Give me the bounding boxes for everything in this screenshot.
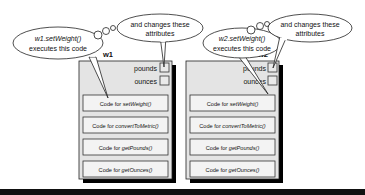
svg-text:Code for getPounds(): Code for getPounds() xyxy=(99,145,153,151)
svg-text:Code for getPounds(): Code for getPounds() xyxy=(206,145,260,151)
svg-text:Code for convertToMetric(): Code for convertToMetric() xyxy=(199,123,265,129)
svg-text:Code for getOunces(): Code for getOunces() xyxy=(206,167,260,173)
w2-method-getpounds: Code for getPounds() xyxy=(190,139,275,155)
w1-call-text-2: executes this code xyxy=(29,45,87,52)
object-w1: w1 pounds ounces Code for setWeight() Co… xyxy=(79,50,176,183)
w1-attr-bubble: and changes these attributes xyxy=(94,14,203,67)
bottom-rule xyxy=(0,189,365,195)
w2-attr-text-2: attributes xyxy=(296,30,325,37)
w1-label: w1 xyxy=(102,50,113,59)
w2-method-setweight: Code for setWeight() xyxy=(190,95,275,111)
w1-method-converttometric: Code for convertToMetric() xyxy=(83,117,168,133)
w1-ounces-slot xyxy=(160,76,169,85)
w1-method-getpounds: Code for getPounds() xyxy=(83,139,168,155)
svg-text:Code for setWeight(): Code for setWeight() xyxy=(100,101,152,107)
object-w2: w2 pounds ounces Code for setWeight() Co… xyxy=(186,50,283,183)
w2-call-text-1: w2.setWeight() xyxy=(219,35,266,43)
w1-method-getounces: Code for getOunces() xyxy=(83,161,168,177)
svg-text:Code for setWeight(): Code for setWeight() xyxy=(207,101,259,107)
object-diagram: w1 pounds ounces Code for setWeight() Co… xyxy=(0,0,365,195)
svg-text:Code for getOunces(): Code for getOunces() xyxy=(99,167,153,173)
w2-method-converttometric: Code for convertToMetric() xyxy=(190,117,275,133)
w1-call-text-1: w1.setWeight() xyxy=(35,35,82,43)
w1-attr-pounds: pounds xyxy=(134,65,157,73)
w2-ounces-slot xyxy=(268,76,277,85)
w2-attr-ounces: ounces xyxy=(243,78,266,85)
w1-attr-text-1: and changes these xyxy=(130,21,189,29)
svg-text:Code for convertToMetric(): Code for convertToMetric() xyxy=(92,123,158,129)
w1-attr-text-2: attributes xyxy=(146,30,175,37)
w2-pounds-slot xyxy=(268,63,277,72)
w2-call-text-2: executes this code xyxy=(213,45,271,52)
w1-attr-ounces: ounces xyxy=(134,78,157,85)
w2-method-getounces: Code for getOunces() xyxy=(190,161,275,177)
w1-method-setweight: Code for setWeight() xyxy=(83,95,168,111)
w2-attr-text-1: and changes these xyxy=(280,21,339,29)
